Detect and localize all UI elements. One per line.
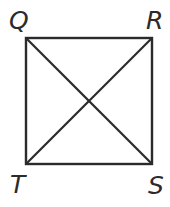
vertex-label-t: T [10,172,25,197]
vertex-label-r: R [146,8,163,33]
vertex-label-s: S [148,173,164,198]
geometry-figure: Q R S T [0,0,170,207]
vertex-label-q: Q [9,8,29,33]
